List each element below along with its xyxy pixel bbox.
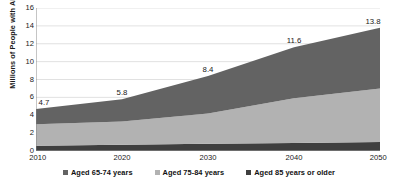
y-axis-tick-label: 12 xyxy=(26,40,34,48)
data-label: 4.7 xyxy=(39,98,50,107)
y-axis-tick-labels: 0246810121416 xyxy=(14,8,34,151)
legend-item[interactable]: Aged 85 years or older xyxy=(246,168,335,177)
y-axis-tick-label: 4 xyxy=(30,111,34,119)
data-label: 11.6 xyxy=(287,36,302,45)
legend-swatch-icon xyxy=(155,170,160,175)
y-axis-tick-label: 6 xyxy=(30,93,34,101)
x-axis-tick-labels: 20102020203020402050 xyxy=(36,153,380,165)
y-axis-tick-label: 10 xyxy=(26,58,34,66)
x-axis-tick-label: 2010 xyxy=(29,153,46,162)
legend-item[interactable]: Aged 65-74 years xyxy=(63,168,133,177)
chart-legend: Aged 65-74 yearsAged 75-84 yearsAged 85 … xyxy=(0,168,398,177)
y-axis-tick-label: 14 xyxy=(26,22,34,30)
legend-label: Aged 85 years or older xyxy=(254,168,335,177)
data-label: 5.8 xyxy=(117,88,128,97)
stacked-area-chart: Millions of People with Alzheimer's 0246… xyxy=(0,0,398,187)
series-areas xyxy=(36,28,380,151)
x-axis-tick-label: 2050 xyxy=(370,153,387,162)
x-axis-tick-label: 2040 xyxy=(286,153,303,162)
y-axis-tick-label: 16 xyxy=(26,4,34,12)
legend-label: Aged 75-84 years xyxy=(163,168,225,177)
x-axis-tick-label: 2030 xyxy=(200,153,217,162)
legend-swatch-icon xyxy=(246,170,251,175)
x-axis-tick-label: 2020 xyxy=(114,153,131,162)
plot-svg xyxy=(36,8,380,151)
legend-swatch-icon xyxy=(63,170,68,175)
data-label: 13.8 xyxy=(365,17,380,26)
data-label: 8.4 xyxy=(203,65,214,74)
plot-area xyxy=(36,8,380,151)
y-axis-tick-label: 8 xyxy=(30,76,34,84)
legend-item[interactable]: Aged 75-84 years xyxy=(155,168,225,177)
legend-label: Aged 65-74 years xyxy=(71,168,133,177)
y-axis-tick-label: 2 xyxy=(30,129,34,137)
